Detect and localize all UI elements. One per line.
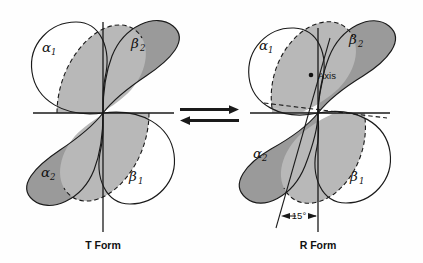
r-form-label-beta2: β [348,31,357,47]
equilibrium-arrow-forward [180,105,239,114]
t-form-sub-beta1: 1 [138,176,143,186]
t-form-sub-alpha2: 2 [49,172,55,182]
r-form-sub-alpha2: 2 [261,153,267,163]
t-form-label-beta2: β [130,35,139,51]
t-form-label-beta1: β [128,168,137,184]
r-form-label-alpha2: α [253,145,262,161]
figure-canvas: α 1 β 2 α 2 β 1 T Form [0,0,423,263]
r-form-axis-label: Axis [318,70,336,81]
equilibrium-arrow-reverse [180,116,239,125]
t-form-label-alpha1: α [42,39,51,55]
equilibrium-arrows [180,105,239,125]
r-form-label-beta1: β [349,168,358,184]
r-form-structure: Axis 15° α 1 β 2 α 2 β 1 R Form [239,21,395,251]
r-form-sub-alpha1: 1 [268,45,273,55]
t-form-sub-beta2: 2 [139,43,145,53]
r-form-caption: R Form [300,239,337,251]
r-form-sub-beta2: 2 [357,39,363,49]
r-form-angle-label: 15° [292,210,307,221]
r-form-label-alpha1: α [259,37,268,53]
r-form-angle-annotation: 15° [281,210,317,221]
r-form-sub-beta1: 1 [359,176,364,186]
t-form-caption: T Form [85,239,121,251]
angle-arrowhead-left [281,213,290,219]
t-form-label-alpha2: α [41,164,50,180]
t-form-sub-alpha1: 1 [51,47,56,57]
t-form-structure: α 1 β 2 α 2 β 1 T Form [27,21,180,251]
r-form-axis-dot-icon [309,73,314,78]
